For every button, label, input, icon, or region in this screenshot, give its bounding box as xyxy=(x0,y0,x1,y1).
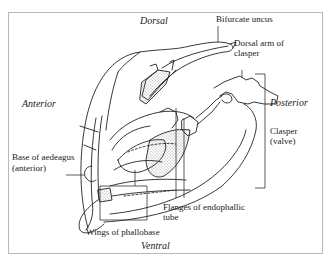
label-base-aedeagus-line2: (anterior) xyxy=(12,163,46,173)
label-flanges-line1: Flanges of endophallic xyxy=(163,202,245,212)
bracket-clasper xyxy=(255,74,265,188)
orientation-anterior: Anterior xyxy=(22,98,56,109)
stippled-flange-upper xyxy=(140,70,170,104)
orientation-ventral: Ventral xyxy=(141,240,170,251)
orientation-posterior: Posterior xyxy=(270,97,308,108)
stippled-flange-lower xyxy=(146,129,190,177)
label-dorsal-arm-line1: Dorsal arm of xyxy=(234,38,284,48)
label-clasper-line1: Clasper xyxy=(270,126,298,136)
dorsal-arm-clasper xyxy=(214,76,278,104)
label-flanges-line2: tube xyxy=(163,212,179,222)
label-base-aedeagus-line1: Base of aedeagus xyxy=(12,152,74,162)
label-clasper-line2: (valve) xyxy=(270,136,295,146)
orientation-dorsal: Dorsal xyxy=(140,15,168,26)
label-bifurcate-uncus: Bifurcate uncus xyxy=(216,14,273,24)
label-wings-phallobase: Wings of phallobase xyxy=(86,227,160,237)
label-dorsal-arm-line2: clasper xyxy=(234,48,259,58)
